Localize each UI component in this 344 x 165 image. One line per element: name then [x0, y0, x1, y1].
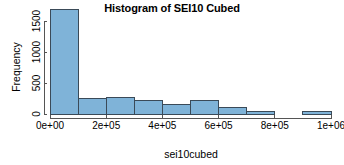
- histogram-bar: [219, 107, 247, 114]
- x-axis-tick-label: 0e+00: [36, 120, 65, 131]
- histogram-bar: [134, 101, 162, 114]
- histogram-bar: [247, 111, 275, 114]
- x-axis-tick-label: 2e+05: [92, 120, 121, 131]
- y-axis-title: Frequency: [10, 41, 22, 91]
- y-axis: 050010001500: [31, 9, 47, 116]
- histogram-bar: [303, 112, 331, 114]
- histogram-bar: [106, 97, 134, 114]
- x-axis-tick-label: 6e+05: [205, 120, 234, 131]
- x-axis-tick-label: 8e+05: [261, 120, 290, 131]
- y-axis-tick-label: 0: [31, 111, 42, 117]
- histogram-bars: [50, 9, 331, 114]
- x-axis: 0e+002e+054e+056e+058e+051e+06: [36, 115, 344, 131]
- histogram-bar: [50, 9, 78, 114]
- y-axis-tick-label: 500: [31, 74, 42, 91]
- histogram-bar: [78, 99, 106, 115]
- histogram-bar: [162, 105, 190, 114]
- x-axis-tick-label: 4e+05: [148, 120, 177, 131]
- x-axis-tick-label: 1e+06: [317, 120, 344, 131]
- histogram-plot-panel: Histogram of SEI10 Cubed 050010001500 0e…: [0, 0, 344, 165]
- y-axis-tick-label: 1000: [31, 40, 42, 63]
- x-axis-title: sei10cubed: [164, 148, 218, 160]
- y-axis-tick-label: 1500: [31, 9, 42, 32]
- histogram-bar: [191, 100, 219, 114]
- histogram-svg: 050010001500 0e+002e+054e+056e+058e+051e…: [0, 0, 344, 165]
